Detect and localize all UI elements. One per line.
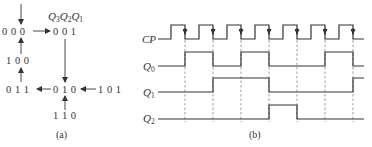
state-header: Q3Q2Q1 — [48, 10, 83, 24]
caption-a: (a) — [56, 129, 67, 141]
label-q1: Q1 — [143, 86, 155, 100]
waveform-cp — [158, 25, 364, 39]
caption-b: (b) — [249, 129, 261, 141]
state-001: 0 0 1 — [53, 26, 77, 37]
state-110: 1 1 0 — [53, 110, 77, 121]
label-cp: CP — [142, 33, 156, 45]
waveform-q1 — [158, 78, 364, 92]
waveform-q0 — [158, 52, 364, 66]
timing-diagram: CP Q0 Q1 Q2 — [130, 0, 372, 147]
label-q2: Q2 — [143, 112, 155, 126]
state-101: 1 0 1 — [98, 84, 122, 95]
timing-diagram-panel: CP Q0 Q1 Q2 — [130, 0, 372, 147]
falling-edge-arrows — [185, 28, 353, 35]
state-011: 0 1 1 — [6, 84, 30, 95]
waveform-q2 — [158, 105, 364, 119]
label-q0: Q0 — [143, 60, 155, 74]
state-diagram-panel: Q3Q2Q1 0 0 0 0 0 1 1 0 0 0 1 1 0 1 0 1 0… — [0, 0, 130, 147]
state-100: 1 0 0 — [6, 55, 30, 66]
state-diagram: Q3Q2Q1 0 0 0 0 0 1 1 0 0 0 1 1 0 1 0 1 0… — [0, 0, 130, 147]
state-010: 0 1 0 — [53, 84, 77, 95]
state-000: 0 0 0 — [2, 26, 26, 37]
